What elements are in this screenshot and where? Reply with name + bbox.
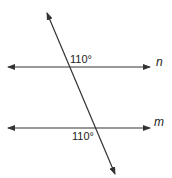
angle-label-n: 110° <box>70 53 92 65</box>
line-n-label: n <box>156 55 163 69</box>
line-m-label: m <box>154 115 164 129</box>
parallel-lines-diagram: n m 110° 110° <box>0 0 172 178</box>
angle-label-m: 110° <box>72 130 94 142</box>
transversal-line <box>47 13 115 174</box>
